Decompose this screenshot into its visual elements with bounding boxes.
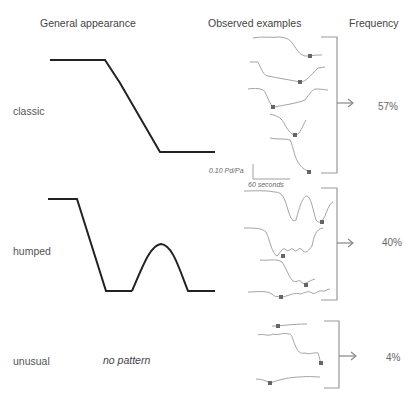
bracket-classic — [321, 37, 337, 173]
schematic-humped — [48, 199, 132, 291]
marker-unusual-2 — [319, 361, 323, 365]
trace-classic-5 — [270, 138, 310, 172]
marker-classic-3 — [271, 105, 275, 109]
trace-unusual-2 — [258, 333, 321, 364]
marker-humped-1 — [320, 220, 324, 224]
diagram-canvas — [0, 0, 417, 394]
marker-humped-3 — [304, 283, 308, 287]
marker-humped-2 — [281, 254, 285, 258]
marker-classic-1 — [308, 54, 312, 58]
schematic-classic — [50, 60, 215, 152]
trace-humped-4 — [248, 289, 330, 297]
schematic-humped-hump — [132, 244, 215, 291]
scale-bar — [253, 164, 290, 179]
marker-humped-4 — [279, 295, 283, 299]
trace-humped-3 — [260, 260, 315, 284]
bracket-humped — [321, 188, 337, 300]
marker-classic-4 — [293, 133, 297, 137]
arrow-unusual — [339, 352, 356, 360]
trace-unusual-3 — [256, 377, 320, 383]
trace-classic-4 — [270, 114, 306, 135]
trace-humped-1 — [244, 191, 333, 222]
trace-classic-2 — [250, 62, 325, 82]
marker-unusual-3 — [268, 381, 272, 385]
trace-classic-3 — [248, 88, 328, 107]
arrow-humped — [337, 239, 353, 247]
marker-classic-5 — [307, 170, 311, 174]
trace-classic-1 — [253, 37, 322, 56]
arrow-classic — [337, 99, 353, 107]
marker-unusual-1 — [276, 324, 280, 328]
marker-classic-2 — [298, 80, 302, 84]
trace-humped-2 — [244, 228, 323, 256]
bracket-unusual — [324, 321, 339, 388]
